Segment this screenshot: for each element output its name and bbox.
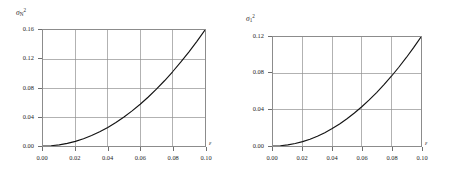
x-tick-label: 0.06 <box>348 155 376 161</box>
x-tick-label: 0.08 <box>378 155 406 161</box>
x-tick-mark <box>302 147 303 151</box>
x-tick-label: 0.02 <box>288 155 316 161</box>
x-tick-mark <box>75 147 76 151</box>
y-tick-label: 0.00 <box>238 143 264 149</box>
y-axis-label-left-superscript: 2 <box>23 7 26 13</box>
x-tick-label: 0.04 <box>94 155 122 161</box>
x-tick-label: 0.02 <box>61 155 89 161</box>
plot-svg-right <box>273 37 421 146</box>
y-axis-label-left: σN2 <box>16 8 26 17</box>
data-curve-right <box>273 37 421 146</box>
x-tick-mark <box>422 147 423 151</box>
y-tick-label: 0.12 <box>238 33 264 39</box>
x-tick-mark <box>42 147 43 151</box>
x-tick-mark <box>206 147 207 151</box>
y-axis-label-right: σ12 <box>246 14 255 23</box>
y-tick-label: 0.12 <box>8 55 34 61</box>
x-tick-label: 0.00 <box>258 155 286 161</box>
x-tick-mark <box>332 147 333 151</box>
x-tick-label: 0.10 <box>408 155 436 161</box>
x-tick-label: 0.10 <box>192 155 220 161</box>
y-tick-mark <box>268 109 272 110</box>
plot-svg-left <box>43 30 205 146</box>
x-tick-mark <box>272 147 273 151</box>
y-tick-label: 0.04 <box>238 106 264 112</box>
x-tick-mark <box>140 147 141 151</box>
y-tick-mark <box>268 36 272 37</box>
y-tick-label: 0.08 <box>8 85 34 91</box>
figure-root: σN2 0.00 <box>0 0 450 177</box>
y-tick-mark <box>38 117 42 118</box>
x-tick-mark <box>392 147 393 151</box>
plot-area-right <box>272 36 422 147</box>
x-tick-label: 0.06 <box>126 155 154 161</box>
y-tick-mark <box>38 88 42 89</box>
x-tick-mark <box>362 147 363 151</box>
x-tick-mark <box>108 147 109 151</box>
x-tick-mark <box>173 147 174 151</box>
chart-panel-right: σ12 0.00 0.04 0.08 0.12 <box>228 0 450 177</box>
grid-left <box>43 30 205 146</box>
y-tick-label: 0.00 <box>8 143 34 149</box>
x-tick-label: 0.00 <box>28 155 56 161</box>
y-tick-label: 0.04 <box>8 114 34 120</box>
x-axis-label-left: ε <box>209 140 211 146</box>
plot-area-left <box>42 29 206 147</box>
y-tick-mark <box>38 29 42 30</box>
y-axis-label-right-superscript: 2 <box>252 13 255 19</box>
chart-panel-left: σN2 0.00 <box>0 0 228 177</box>
x-tick-label: 0.08 <box>159 155 187 161</box>
y-tick-label: 0.16 <box>8 26 34 32</box>
y-tick-mark <box>268 72 272 73</box>
x-axis-label-right: ε <box>425 140 427 146</box>
y-tick-mark <box>38 58 42 59</box>
x-tick-label: 0.04 <box>318 155 346 161</box>
grid-right <box>273 37 421 146</box>
y-tick-label: 0.08 <box>238 69 264 75</box>
